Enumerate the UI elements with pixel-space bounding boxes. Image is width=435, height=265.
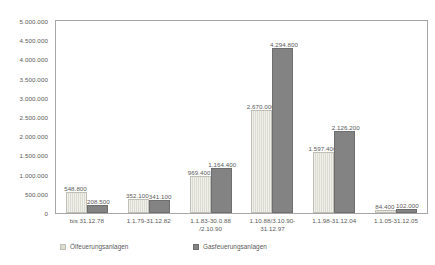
- bar-value-label: 352.100: [126, 192, 149, 199]
- bar-wrap-gas: 2.126.200: [334, 21, 355, 213]
- bar-gas[interactable]: 1.164.400: [211, 168, 232, 213]
- bar-value-label: 1.164.400: [208, 161, 236, 168]
- legend-label-gas: Gasfeuerungsanlagen: [203, 243, 267, 251]
- bar-group: 969.4001.164.400: [180, 21, 242, 213]
- bar-wrap-oil: 969.400: [190, 21, 211, 213]
- bar-gas[interactable]: 4.294.800: [272, 48, 293, 213]
- bar-group: 2.670.0004.294.800: [241, 21, 303, 213]
- bar-gas[interactable]: 102.000: [396, 209, 417, 213]
- bar-groups: 548.800208.500352.100341.100969.4001.164…: [56, 21, 427, 213]
- bar-oil[interactable]: 969.400: [190, 176, 211, 213]
- legend-label-oil: Ölfeuerungsanlagen: [70, 243, 128, 251]
- y-axis-tick: 1.500.000: [20, 152, 48, 159]
- x-axis-category-label: 1.1.83-30.0.88 /2.10.90: [180, 216, 242, 240]
- bar-wrap-gas: 4.294.800: [272, 21, 293, 213]
- bar-gas[interactable]: 208.500: [87, 205, 108, 213]
- bar-value-label: 84.400: [375, 203, 394, 210]
- x-axis-category-label: 1.1.79-31.12.82: [118, 216, 180, 240]
- bar-wrap-oil: 352.100: [128, 21, 149, 213]
- bar-value-label: 548.800: [64, 185, 87, 192]
- bar-wrap-gas: 208.500: [87, 21, 108, 213]
- bar-oil[interactable]: 2.670.000: [251, 110, 272, 213]
- bar-wrap-oil: 1.597.400: [313, 21, 334, 213]
- y-axis: 5.000.0004.500.0004.000.0003.500.0003.00…: [0, 20, 52, 214]
- x-axis-category-label: 1.10.88/3.10.90- 31.12.97: [241, 216, 303, 240]
- x-axis-category-label: 1.1.98-31.12.04: [303, 216, 365, 240]
- legend-swatch-gas-icon: [193, 244, 199, 250]
- bar-wrap-gas: 341.100: [149, 21, 170, 213]
- bar-value-label: 2.126.200: [332, 124, 360, 131]
- y-axis-tick: 2.500.000: [20, 114, 48, 121]
- bar-wrap-gas: 102.000: [396, 21, 417, 213]
- bar-value-label: 208.500: [87, 198, 110, 205]
- bar-value-label: 4.294.800: [270, 41, 298, 48]
- bar-value-label: 969.400: [188, 169, 211, 176]
- y-axis-tick: 3.500.000: [20, 75, 48, 82]
- bar-value-label: 341.100: [149, 193, 172, 200]
- bar-value-label: 1.597.400: [309, 145, 337, 152]
- chart-legend: Ölfeuerungsanlagen Gasfeuerungsanlagen: [60, 243, 267, 251]
- y-axis-tick: 3.000.000: [20, 94, 48, 101]
- x-axis-category-label: bis 31.12.78: [56, 216, 118, 240]
- y-axis-tick: 0: [44, 210, 48, 217]
- bar-wrap-oil: 2.670.000: [251, 21, 272, 213]
- bar-wrap-oil: 548.800: [66, 21, 87, 213]
- y-axis-tick: 1.000.000: [20, 171, 48, 178]
- bar-oil[interactable]: 548.800: [66, 192, 87, 213]
- y-axis-tick: 500.000: [25, 190, 48, 197]
- legend-item-oil[interactable]: Ölfeuerungsanlagen: [60, 243, 193, 251]
- y-axis-tick: 4.500.000: [20, 37, 48, 44]
- bar-group: 1.597.4002.126.200: [303, 21, 365, 213]
- bar-wrap-gas: 1.164.400: [211, 21, 232, 213]
- bar-gas[interactable]: 2.126.200: [334, 131, 355, 213]
- legend-item-gas[interactable]: Gasfeuerungsanlagen: [193, 243, 267, 251]
- bar-group: 352.100341.100: [118, 21, 180, 213]
- y-axis-tick: 4.000.000: [20, 56, 48, 63]
- x-axis: bis 31.12.781.1.79-31.12.821.1.83-30.0.8…: [56, 216, 427, 240]
- bar-group: 84.400102.000: [365, 21, 427, 213]
- y-axis-tick: 2.000.000: [20, 133, 48, 140]
- bar-value-label: 102.000: [396, 202, 419, 209]
- bar-wrap-oil: 84.400: [375, 21, 396, 213]
- bar-oil[interactable]: 84.400: [375, 210, 396, 213]
- bar-oil[interactable]: 1.597.400: [313, 152, 334, 213]
- bar-chart: 5.000.0004.500.0004.000.0003.500.0003.00…: [0, 0, 435, 265]
- bar-oil[interactable]: 352.100: [128, 199, 149, 213]
- y-axis-tick: 5.000.000: [20, 18, 48, 25]
- bar-gas[interactable]: 341.100: [149, 200, 170, 213]
- x-axis-category-label: 1.1.05-31.12.05: [365, 216, 427, 240]
- legend-swatch-oil-icon: [60, 244, 66, 250]
- bar-group: 548.800208.500: [56, 21, 118, 213]
- bar-value-label: 2.670.000: [247, 103, 275, 110]
